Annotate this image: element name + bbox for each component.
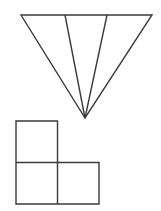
geometry-figure-canvas: Subdivided inverted triangle and L-shape… (0, 0, 161, 211)
canvas-background (0, 0, 161, 211)
